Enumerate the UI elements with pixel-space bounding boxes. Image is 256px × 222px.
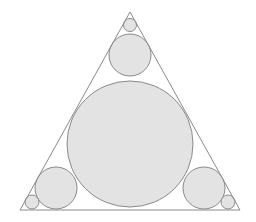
circles-group	[25, 19, 235, 210]
circle-right-medium	[183, 167, 225, 209]
circle-top-medium	[109, 34, 151, 76]
circle-incircle	[67, 81, 193, 207]
circle-left-medium	[35, 167, 77, 209]
tangent-circles-diagram	[0, 0, 256, 222]
